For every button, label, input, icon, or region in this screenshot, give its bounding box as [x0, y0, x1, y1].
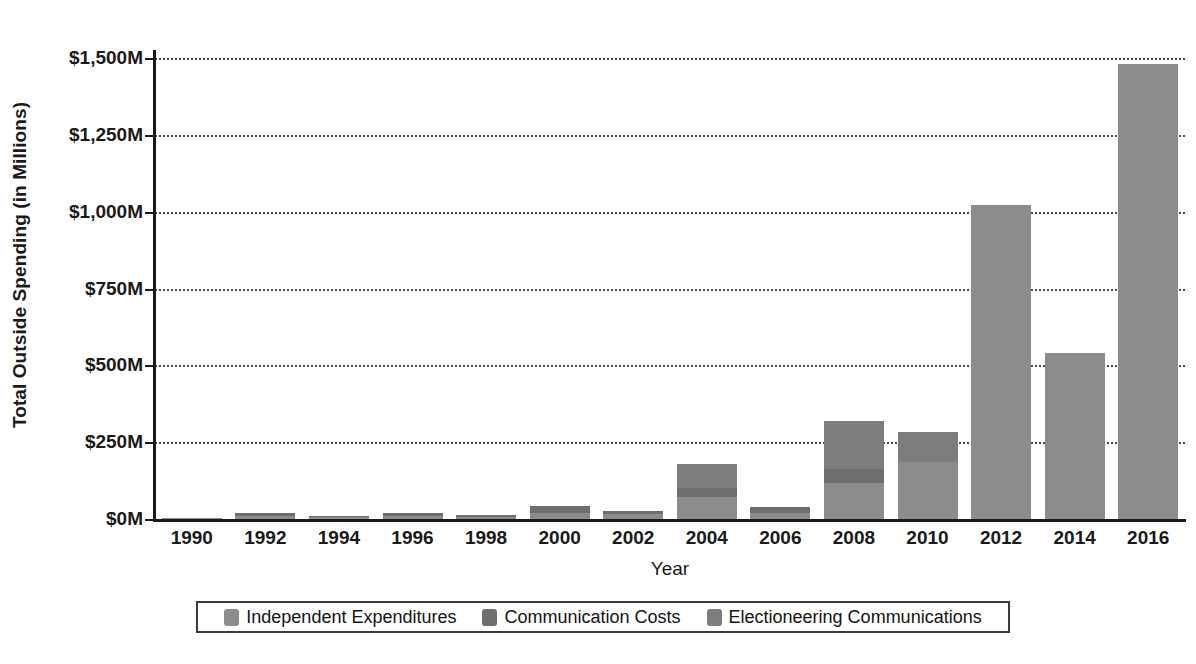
bar-group[interactable]	[309, 58, 369, 519]
bar-segment[interactable]	[677, 464, 737, 488]
y-axis-tick-mark	[145, 519, 156, 521]
bar-group[interactable]	[1045, 58, 1105, 519]
x-axis-tick-label: 1994	[299, 527, 379, 549]
legend-item[interactable]: Electioneering Communications	[707, 607, 982, 628]
bar-segment[interactable]	[677, 497, 737, 519]
y-axis-tick-mark	[145, 58, 156, 60]
y-axis-tick-mark	[145, 442, 156, 444]
bar-group[interactable]	[456, 58, 516, 519]
bar-group[interactable]	[162, 58, 222, 519]
y-axis-tick-mark	[145, 365, 156, 367]
legend-label: Independent Expenditures	[246, 607, 456, 628]
bar-segment[interactable]	[824, 421, 884, 469]
y-axis-tick-mark	[145, 289, 156, 291]
legend-swatch-icon	[707, 609, 722, 626]
x-axis-title: Year	[155, 558, 1185, 580]
bar-segment[interactable]	[530, 506, 590, 513]
x-axis-tick-label: 1990	[152, 527, 232, 549]
bar-group[interactable]	[530, 58, 590, 519]
bar-group[interactable]	[603, 58, 663, 519]
bar-group[interactable]	[235, 58, 295, 519]
chart-legend: Independent ExpendituresCommunication Co…	[196, 601, 1010, 633]
y-axis-tick-mark	[145, 212, 156, 214]
x-axis-tick-label: 2000	[520, 527, 600, 549]
x-axis-tick-label: 2008	[814, 527, 894, 549]
y-axis-tick-mark	[145, 135, 156, 137]
y-axis-tick-label: $750M	[3, 278, 143, 300]
bar-segment[interactable]	[456, 515, 516, 517]
bar-segment[interactable]	[309, 516, 369, 518]
x-axis-tick-label: 2016	[1108, 527, 1188, 549]
bar-segment[interactable]	[824, 469, 884, 483]
y-axis-tick-label: $250M	[3, 431, 143, 453]
legend-swatch-icon	[224, 609, 239, 626]
x-axis-tick-label: 2014	[1035, 527, 1115, 549]
bar-segment[interactable]	[898, 432, 958, 462]
y-axis-tick-label: $1,000M	[3, 201, 143, 223]
chart-page: Total Outside Spending (in Millions) $0M…	[0, 0, 1196, 664]
bar-group[interactable]	[677, 58, 737, 519]
y-axis-tick-label: $500M	[3, 354, 143, 376]
x-axis-tick-label: 2004	[667, 527, 747, 549]
legend-item[interactable]: Independent Expenditures	[224, 607, 456, 628]
bar-group[interactable]	[1118, 58, 1178, 519]
bar-segment[interactable]	[603, 511, 663, 514]
x-axis-tick-label: 2002	[593, 527, 673, 549]
bar-segment[interactable]	[677, 488, 737, 497]
legend-swatch-icon	[482, 609, 497, 626]
x-axis-tick-labels: 1990199219941996199820002002200420062008…	[155, 527, 1185, 557]
bar-segment[interactable]	[750, 507, 810, 513]
y-axis-tick-label: $1,250M	[3, 124, 143, 146]
bar-segment[interactable]	[1045, 353, 1105, 519]
bar-group[interactable]	[750, 58, 810, 519]
y-axis-tick-label: $0M	[3, 508, 143, 530]
bar-segment[interactable]	[971, 205, 1031, 519]
x-axis-tick-label: 1998	[446, 527, 526, 549]
x-axis-line	[155, 519, 1186, 522]
y-axis-tick-labels: $0M$250M$500M$750M$1,000M$1,250M$1,500M	[0, 0, 143, 664]
x-axis-tick-label: 2012	[961, 527, 1041, 549]
plot-area	[155, 58, 1185, 519]
legend-item[interactable]: Communication Costs	[482, 607, 680, 628]
x-axis-tick-label: 1992	[225, 527, 305, 549]
x-axis-tick-label: 2010	[888, 527, 968, 549]
bar-segment[interactable]	[383, 513, 443, 516]
bar-segment[interactable]	[235, 513, 295, 515]
bar-group[interactable]	[824, 58, 884, 519]
bar-segment[interactable]	[1118, 64, 1178, 519]
legend-label: Electioneering Communications	[729, 607, 982, 628]
bar-segment[interactable]	[824, 483, 884, 519]
bar-group[interactable]	[971, 58, 1031, 519]
x-axis-tick-label: 2006	[740, 527, 820, 549]
y-axis-tick-label: $1,500M	[3, 47, 143, 69]
legend-label: Communication Costs	[504, 607, 680, 628]
bar-group[interactable]	[383, 58, 443, 519]
bar-segment[interactable]	[898, 462, 958, 519]
x-axis-tick-label: 1996	[373, 527, 453, 549]
bar-group[interactable]	[898, 58, 958, 519]
